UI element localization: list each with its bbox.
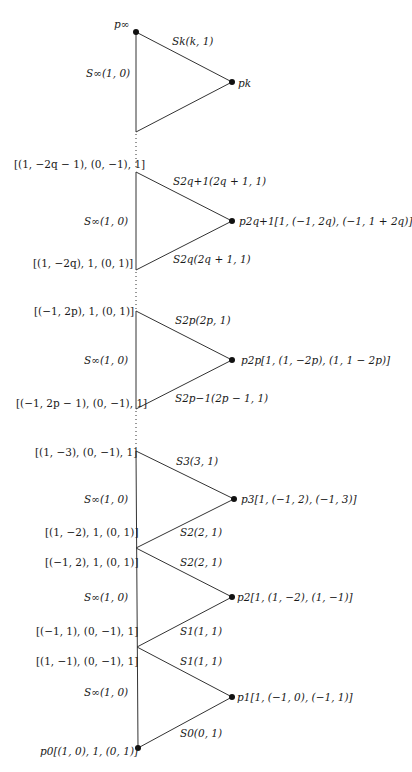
label-s-2p1: S2p−1(2p − 1, 1) xyxy=(175,392,268,404)
label-p-2: p2[1, (1, −2), (1, −1)] xyxy=(237,591,353,603)
label-p-1: p1[1, (−1, 0), (−1, 1)] xyxy=(237,691,353,703)
vertex-p-k xyxy=(229,79,235,85)
label-s-inf: S∞(1, 0) xyxy=(86,67,130,79)
label-s-2b: S2(2, 1) xyxy=(180,556,222,568)
label-s-1a: S1(1, 1) xyxy=(180,625,222,637)
vertex-p-3 xyxy=(231,496,237,502)
label-s-k: Sk(k, 1) xyxy=(172,35,213,47)
label-s-2p: S2p(2p, 1) xyxy=(175,314,231,326)
label-p-3: p3[1, (−1, 2), (−1, 3)] xyxy=(241,493,357,505)
edge-s-2a xyxy=(136,499,234,548)
label-bot-2q: [(1, −2q), 1, (0, 1)] xyxy=(33,257,133,269)
label-s-3: S3(3, 1) xyxy=(176,455,218,467)
label-s-inf: S∞(1, 0) xyxy=(84,686,128,698)
label-j2-upper: [(1, −2), 1, (0, 1)] xyxy=(45,526,138,538)
label-p-0: p0[(1, 0), 1, (0, 1)] xyxy=(40,745,138,757)
edge xyxy=(136,82,232,132)
edge-s-0 xyxy=(138,697,232,748)
label-s-inf: S∞(1, 0) xyxy=(84,215,128,227)
label-j2-lower: [(−1, 2), 1, (0, 1)] xyxy=(45,556,138,568)
label-p-2q1: p2q+1[1, (−1, 2q), (−1, 1 + 2q)] xyxy=(239,215,412,227)
label-s-0: S0(0, 1) xyxy=(180,727,222,739)
vertex-p-2q1 xyxy=(229,218,235,224)
label-s-inf: S∞(1, 0) xyxy=(84,591,128,603)
vertex-p-2p xyxy=(229,357,235,363)
edge-s-inf xyxy=(136,451,138,748)
label-top-2p: [(−1, 2p), 1, (0, 1)] xyxy=(34,305,134,317)
vertex-p-inf xyxy=(133,29,139,35)
vertex-p-2 xyxy=(229,594,235,600)
label-s-2q1: S2q+1(2q + 1, 1) xyxy=(173,175,266,187)
label-j1-upper: [(−1, 1), (0, −1), 1] xyxy=(36,625,138,637)
label-top-3: [(1, −3), (0, −1), 1] xyxy=(35,446,137,458)
edge-s-1a xyxy=(137,597,232,647)
label-s-2q: S2q(2q + 1, 1) xyxy=(173,253,251,265)
label-s-1b: S1(1, 1) xyxy=(180,655,222,667)
vertex-p-1 xyxy=(229,694,235,700)
label-p-inf: p∞ xyxy=(114,18,129,30)
label-s-inf: S∞(1, 0) xyxy=(84,354,128,366)
label-bot-2p1: [(−1, 2p − 1), (0, −1), 1] xyxy=(16,397,147,409)
label-p-2p: p2p[1, (1, −2p), (1, 1 − 2p)] xyxy=(241,354,390,366)
label-top-2q1: [(1, −2q − 1), (0, −1), 1] xyxy=(14,158,145,170)
label-s-inf: S∞(1, 0) xyxy=(84,493,128,505)
label-p-k: pk xyxy=(238,77,251,89)
label-j1-lower: [(1, −1), (0, −1), 1] xyxy=(36,655,138,667)
label-s-2a: S2(2, 1) xyxy=(180,526,222,538)
